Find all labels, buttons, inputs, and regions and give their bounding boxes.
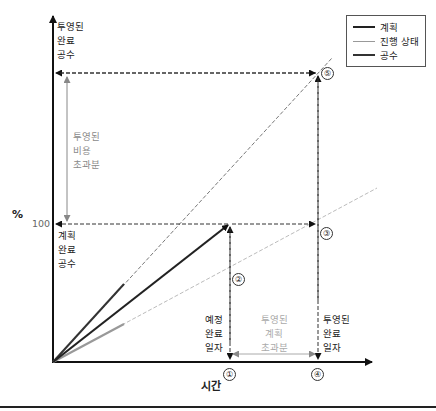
legend-item-progress: 진행 상태 [353,34,419,48]
label-line: 완료 [205,327,223,341]
planned-completion-effort-label: 계획 완료 공수 [58,229,76,271]
projected-completion-effort-label: 투영된 완료 공수 [57,20,84,62]
label-line: 초과분 [73,158,100,172]
label-line: 예정 [205,313,223,327]
projected-schedule-overrun-label: 투영된 계획 초과분 [252,313,296,355]
label-line: 투영된 [252,313,296,327]
label-line: 비용 [73,144,100,158]
scheduled-completion-date-label: 예정 완료 일자 [205,313,223,355]
label-line: 투영된 [323,313,350,327]
marker-4: ④ [311,368,324,381]
label-line: 공수 [58,257,76,271]
label-line: 초과분 [252,341,296,355]
legend-item-plan: 계획 [353,20,398,34]
label-line: 완료 [57,34,84,48]
label-line: 투영된 [73,130,100,144]
marker-3: ③ [320,227,333,240]
label-line: 투영된 [57,20,84,34]
label-line: 완료 [323,327,350,341]
legend-label: 진행 상태 [380,34,419,48]
label-line: 완료 [58,243,76,257]
legend-swatch-effort [353,54,375,56]
legend-label: 계획 [380,20,398,34]
legend-swatch-plan [353,26,375,28]
marker-1: ① [223,368,236,381]
label-line: 공수 [57,48,84,62]
label-line: 계획 [252,327,296,341]
progress-line [53,324,124,362]
label-line: 계획 [58,229,76,243]
y-axis-label: % [12,208,23,222]
earned-value-diagram: 계획 진행 상태 공수 투영된 완료 공수 투영된 비용 초과분 % 100 계… [0,0,436,411]
x-axis-label: 시간 [201,380,221,394]
y-tick-100: 100 [32,217,50,231]
legend: 계획 진행 상태 공수 [346,15,426,67]
legend-swatch-progress [353,41,375,42]
legend-label: 공수 [380,48,398,62]
legend-item-effort: 공수 [353,48,398,62]
label-line: 일자 [205,341,223,355]
marker-5: ⑤ [321,67,334,80]
marker-2: ② [232,273,245,286]
effort-line [53,284,124,362]
plan-line [53,225,228,362]
projected-completion-date-label: 투영된 완료 일자 [323,313,350,355]
label-line: 일자 [323,341,350,355]
projected-cost-overrun-label: 투영된 비용 초과분 [73,130,100,172]
